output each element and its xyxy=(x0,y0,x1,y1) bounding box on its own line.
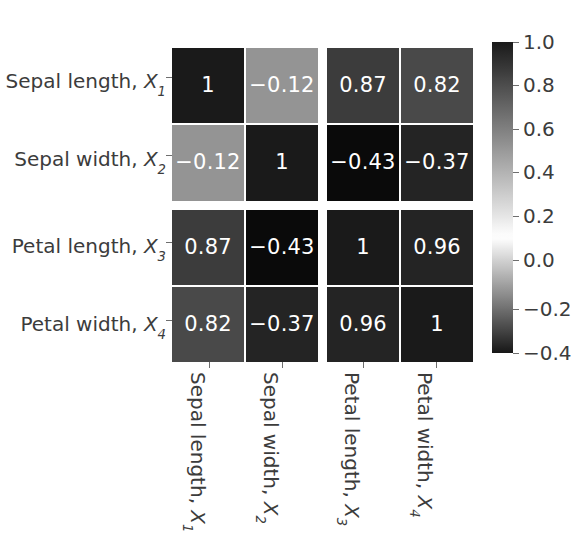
y-tick-label-3-sep: , xyxy=(131,312,144,336)
x-tick-label-2-name: Petal length xyxy=(340,372,364,491)
x-tick-label-3: Petal width, X4 xyxy=(436,372,460,535)
colorbar-tick-label-2: 0.6 xyxy=(523,119,555,139)
heatmap-cell-2-1[interactable]: −0.43 xyxy=(246,210,318,285)
heatmap-cell-value-2-3: 0.96 xyxy=(413,237,461,258)
heatmap-block-separator-vertical-top xyxy=(320,48,325,123)
heatmap-cell-value-2-1: −0.43 xyxy=(249,237,314,258)
y-tick-label-0: Sepal length, X1 xyxy=(0,71,166,95)
y-tick-label-3-sub: 4 xyxy=(158,327,166,342)
x-tick-label-3-sub: 4 xyxy=(407,509,422,517)
heatmap-cell-1-1[interactable]: 1 xyxy=(246,125,318,200)
y-tick-label-1-name: Sepal width xyxy=(14,147,131,171)
x-tick-label-1-sub: 2 xyxy=(253,515,268,523)
y-tick-label-2-sub: 3 xyxy=(158,249,166,264)
x-tick-label-0: Sepal length, X1 xyxy=(209,372,233,535)
y-tick-label-1-sub: 2 xyxy=(158,162,166,177)
heatmap-block-separator-vertical-lower xyxy=(320,210,325,285)
heatmap-cell-2-2[interactable]: 1 xyxy=(327,210,399,285)
colorbar-gradient xyxy=(492,42,513,353)
colorbar-tick-mark-7 xyxy=(513,353,519,354)
heatmap-cell-value-0-1: −0.12 xyxy=(249,75,314,96)
x-tick-label-3-name: Petal width xyxy=(413,372,437,483)
x-tick-label-0-name: Sepal length xyxy=(186,372,210,498)
heatmap-grid: 1 −0.12 0.87 0.82 −0.12 1 −0.43 −0.37 0.… xyxy=(172,48,473,362)
heatmap-cell-0-0[interactable]: 1 xyxy=(172,48,244,123)
y-tick-label-0-sep: , xyxy=(131,69,144,93)
y-tick-label-3-var: X xyxy=(144,312,158,336)
colorbar-tick-label-5: 0.0 xyxy=(523,250,555,270)
x-tick-label-0-var: X xyxy=(186,510,210,524)
heatmap-cell-value-0-0: 1 xyxy=(201,75,215,96)
x-tick-label-0-sub: 1 xyxy=(180,524,195,532)
colorbar-tick-mark-2 xyxy=(513,129,519,130)
heatmap-cell-1-3[interactable]: −0.37 xyxy=(401,125,473,200)
x-tick-label-2-sep: , xyxy=(340,491,364,504)
x-tick-label-1-name: Sepal width xyxy=(259,372,283,489)
colorbar-tick-mark-0 xyxy=(513,42,519,43)
x-tick-label-2: Petal length, X3 xyxy=(363,372,387,535)
heatmap-cell-1-2[interactable]: −0.43 xyxy=(327,125,399,200)
x-tick-label-3-var: X xyxy=(413,496,437,510)
y-tick-label-3: Petal width, X4 xyxy=(0,314,166,338)
x-tick-mark-0 xyxy=(209,362,210,368)
heatmap-cell-3-1[interactable]: −0.37 xyxy=(246,287,318,362)
heatmap-cell-value-1-1: 1 xyxy=(275,152,289,173)
heatmap-cell-value-3-0: 0.82 xyxy=(184,314,232,335)
y-tick-label-1-sep: , xyxy=(131,147,144,171)
x-tick-mark-3 xyxy=(436,362,437,368)
y-tick-label-0-sub: 1 xyxy=(158,84,166,99)
x-tick-label-0-text: Sepal length, X1 xyxy=(186,372,210,532)
heatmap-cell-value-1-0: −0.12 xyxy=(175,152,240,173)
colorbar-tick-label-4: 0.2 xyxy=(523,206,555,226)
colorbar-tick-label-1: 0.8 xyxy=(523,75,555,95)
x-tick-mark-2 xyxy=(363,362,364,368)
x-tick-mark-1 xyxy=(282,362,283,368)
colorbar-tick-label-7: −0.4 xyxy=(523,343,572,363)
y-tick-label-1-var: X xyxy=(144,147,158,171)
y-tick-label-2-sep: , xyxy=(131,234,144,258)
heatmap-cell-value-3-2: 0.96 xyxy=(339,314,387,335)
colorbar-tick-label-6: −0.2 xyxy=(523,299,572,319)
colorbar-tick-mark-1 xyxy=(513,85,519,86)
heatmap-cell-value-1-3: −0.37 xyxy=(404,152,469,173)
x-tick-label-2-sub: 3 xyxy=(334,518,349,526)
y-tick-label-0-var: X xyxy=(144,69,158,93)
colorbar-tick-mark-3 xyxy=(513,172,519,173)
y-tick-label-1: Sepal width, X2 xyxy=(0,149,166,173)
x-tick-label-2-var: X xyxy=(340,504,364,518)
heatmap-cell-2-0[interactable]: 0.87 xyxy=(172,210,244,285)
heatmap-block-separator-horizontal xyxy=(172,203,473,208)
heatmap-cell-0-1[interactable]: −0.12 xyxy=(246,48,318,123)
y-tick-label-2-name: Petal length xyxy=(12,234,131,258)
heatmap-cell-3-2[interactable]: 0.96 xyxy=(327,287,399,362)
heatmap-block-separator-vertical-upper xyxy=(320,125,325,200)
colorbar-tick-mark-6 xyxy=(513,309,519,310)
heatmap-cell-3-0[interactable]: 0.82 xyxy=(172,287,244,362)
heatmap-cell-0-3[interactable]: 0.82 xyxy=(401,48,473,123)
heatmap-cell-value-2-2: 1 xyxy=(356,237,370,258)
heatmap-cell-value-3-1: −0.37 xyxy=(249,314,314,335)
heatmap-cell-0-2[interactable]: 0.87 xyxy=(327,48,399,123)
x-tick-label-0-sep: , xyxy=(186,498,210,511)
x-tick-label-3-text: Petal width, X4 xyxy=(413,372,437,518)
y-tick-label-3-name: Petal width xyxy=(20,312,131,336)
heatmap-cell-1-0[interactable]: −0.12 xyxy=(172,125,244,200)
x-tick-label-1: Sepal width, X2 xyxy=(282,372,306,535)
y-tick-label-2: Petal length, X3 xyxy=(0,236,166,260)
colorbar[interactable] xyxy=(492,42,513,353)
y-tick-label-2-var: X xyxy=(144,234,158,258)
x-tick-label-1-var: X xyxy=(259,502,283,516)
heatmap-cell-value-1-2: −0.43 xyxy=(330,152,395,173)
colorbar-tick-mark-4 xyxy=(513,216,519,217)
heatmap-cell-value-2-0: 0.87 xyxy=(184,237,232,258)
heatmap-cell-value-0-3: 0.82 xyxy=(413,75,461,96)
heatmap-block-separator-vertical-bottom xyxy=(320,287,325,362)
x-tick-label-1-text: Sepal width, X2 xyxy=(259,372,283,524)
x-tick-label-2-text: Petal length, X3 xyxy=(340,372,364,526)
heatmap-cell-2-3[interactable]: 0.96 xyxy=(401,210,473,285)
colorbar-tick-label-3: 0.4 xyxy=(523,162,555,182)
heatmap-cell-value-0-2: 0.87 xyxy=(339,75,387,96)
heatmap-cell-3-3[interactable]: 1 xyxy=(401,287,473,362)
x-tick-label-1-sep: , xyxy=(259,489,283,502)
